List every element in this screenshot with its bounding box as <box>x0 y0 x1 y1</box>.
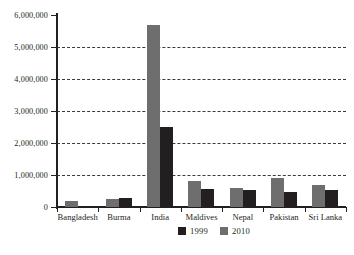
chart-legend: 19992010 <box>178 226 257 236</box>
bar-2010 <box>106 199 119 207</box>
legend-swatch <box>220 227 228 235</box>
bar-1999 <box>284 192 297 207</box>
legend-label: 2010 <box>232 226 250 236</box>
bar-group <box>305 15 346 207</box>
bar-2010 <box>188 181 201 207</box>
bar-group <box>140 15 181 207</box>
bar-group <box>181 15 222 207</box>
x-tick-mark <box>305 207 306 212</box>
y-axis-tick-label: 3,000,000 <box>14 107 48 116</box>
x-axis-tick-label: Maldives <box>186 212 218 222</box>
bars-layer <box>57 15 346 207</box>
bar-2010 <box>65 201 78 207</box>
legend-label: 1999 <box>190 226 208 236</box>
bar-1999 <box>119 198 132 207</box>
legend-swatch <box>178 227 186 235</box>
x-tick-mark <box>263 207 264 212</box>
x-tick-mark <box>98 207 99 212</box>
bar-group <box>57 15 98 207</box>
bar-2010 <box>230 188 243 207</box>
page-caption-ghost <box>8 249 258 255</box>
y-axis-tick-label: 0 <box>44 203 48 212</box>
y-axis-tick-label: 2,000,000 <box>14 139 48 148</box>
bar-chart-figure: 01,000,0002,000,0003,000,0004,000,0005,0… <box>0 0 354 255</box>
bar-2010 <box>271 178 284 207</box>
bar-1999 <box>325 190 338 207</box>
y-axis-tick-label: 4,000,000 <box>14 75 48 84</box>
bar-2010 <box>147 25 160 207</box>
x-axis-tick-label: Pakistan <box>270 212 299 222</box>
bar-1999 <box>160 127 173 207</box>
bar-group <box>263 15 304 207</box>
legend-item: 2010 <box>220 226 250 236</box>
plot-area: 01,000,0002,000,0003,000,0004,000,0005,0… <box>57 15 346 207</box>
x-axis-tick-label: Sri Lanka <box>309 212 343 222</box>
y-axis-tick-label: 5,000,000 <box>14 43 48 52</box>
legend-item: 1999 <box>178 226 208 236</box>
x-tick-mark <box>222 207 223 212</box>
x-tick-mark <box>346 207 347 212</box>
y-axis-tick-label: 6,000,000 <box>14 11 48 20</box>
x-axis-tick-label: Burma <box>107 212 130 222</box>
x-tick-mark <box>140 207 141 212</box>
y-axis-tick-label: 1,000,000 <box>14 171 48 180</box>
x-axis-tick-label: Nepal <box>233 212 254 222</box>
x-axis-tick-label: Bangladesh <box>58 212 98 222</box>
bar-2010 <box>312 185 325 207</box>
bar-1999 <box>243 190 256 207</box>
x-tick-mark <box>181 207 182 212</box>
bar-group <box>98 15 139 207</box>
bar-group <box>222 15 263 207</box>
x-axis-tick-label: India <box>151 212 169 222</box>
bar-1999 <box>201 189 214 207</box>
